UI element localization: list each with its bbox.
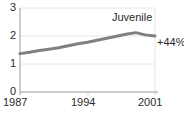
series-label-juvenile: Juvenile (112, 11, 152, 23)
x-tick-label-1994: 1994 (71, 97, 95, 108)
x-tick-label-1987: 1987 (3, 97, 27, 108)
y-tick-label-3: 3 (2, 2, 16, 13)
y-tick-label-2: 2 (2, 30, 16, 41)
change-annotation: +44% (157, 36, 184, 48)
y-tick-label-1: 1 (2, 58, 16, 69)
juvenile-line-chart: 3 2 1 0 1987 1994 2001 Juvenile +44% (0, 0, 184, 113)
x-tick-label-2001: 2001 (138, 97, 162, 108)
